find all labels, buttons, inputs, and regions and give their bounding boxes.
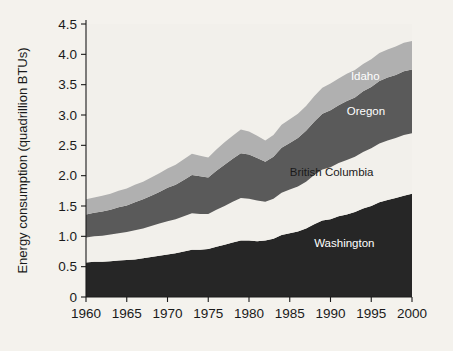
x-tick-label: 1960	[71, 306, 101, 321]
y-tick-label: 2.0	[58, 168, 77, 183]
x-tick-label: 1970	[152, 306, 182, 321]
series-label-washington: Washington	[314, 237, 374, 249]
x-tick-label: 1995	[356, 306, 386, 321]
y-tick-label: 4.5	[58, 17, 77, 32]
y-tick-label: 4.0	[58, 47, 77, 62]
x-tick-label: 1990	[315, 306, 345, 321]
y-tick-label: 1.5	[58, 199, 77, 214]
x-tick-label: 1975	[193, 306, 223, 321]
x-tick-label: 1980	[234, 306, 264, 321]
y-tick-label: 0	[69, 290, 77, 305]
y-tick-label: 3.0	[58, 108, 77, 123]
x-tick-label: 1985	[275, 306, 305, 321]
y-tick-label: 0.5	[58, 259, 77, 274]
y-axis-title: Energy consumption (quadrillion BTUs)	[15, 47, 30, 273]
series-label-oregon: Oregon	[347, 105, 385, 117]
y-tick-label: 2.5	[58, 138, 77, 153]
chart-canvas: 00.51.01.52.02.53.03.54.04.5196019651970…	[0, 0, 453, 351]
x-tick-label: 1965	[112, 306, 142, 321]
y-tick-label: 1.0	[58, 229, 77, 244]
x-tick-label: 2000	[397, 306, 427, 321]
energy-consumption-area-chart: 00.51.01.52.02.53.03.54.04.5196019651970…	[0, 0, 453, 351]
series-label-british-columbia: British Columbia	[290, 166, 374, 178]
y-tick-label: 3.5	[58, 77, 77, 92]
series-label-idaho: Idaho	[351, 70, 380, 82]
